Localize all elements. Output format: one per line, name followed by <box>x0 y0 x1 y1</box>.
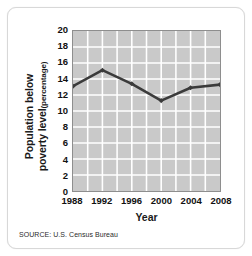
y-tick-label: 18 <box>24 41 68 51</box>
y-tick-label: 14 <box>24 74 68 84</box>
y-tick-label: 4 <box>24 155 68 165</box>
y-tick-label: 16 <box>24 57 68 67</box>
y-axis-tick-labels: 02468101214161820 <box>22 30 68 192</box>
y-tick-label: 10 <box>24 106 68 116</box>
source-note: SOURCE: U.S. Census Bureau <box>19 231 118 238</box>
y-tick-label: 6 <box>24 138 68 148</box>
x-axis-title: Year <box>72 211 221 223</box>
x-axis-tick-labels: 198819921996200020042008 <box>72 195 221 209</box>
y-tick-label: 8 <box>24 122 68 132</box>
x-tick-label: 2008 <box>200 195 242 206</box>
y-tick-label: 12 <box>24 90 68 100</box>
y-tick-label: 20 <box>24 25 68 35</box>
y-tick-label: 2 <box>24 171 68 181</box>
plot-area <box>72 30 221 192</box>
data-series-line <box>73 31 220 191</box>
chart-card: Population below poverty level(percentag… <box>7 7 245 249</box>
